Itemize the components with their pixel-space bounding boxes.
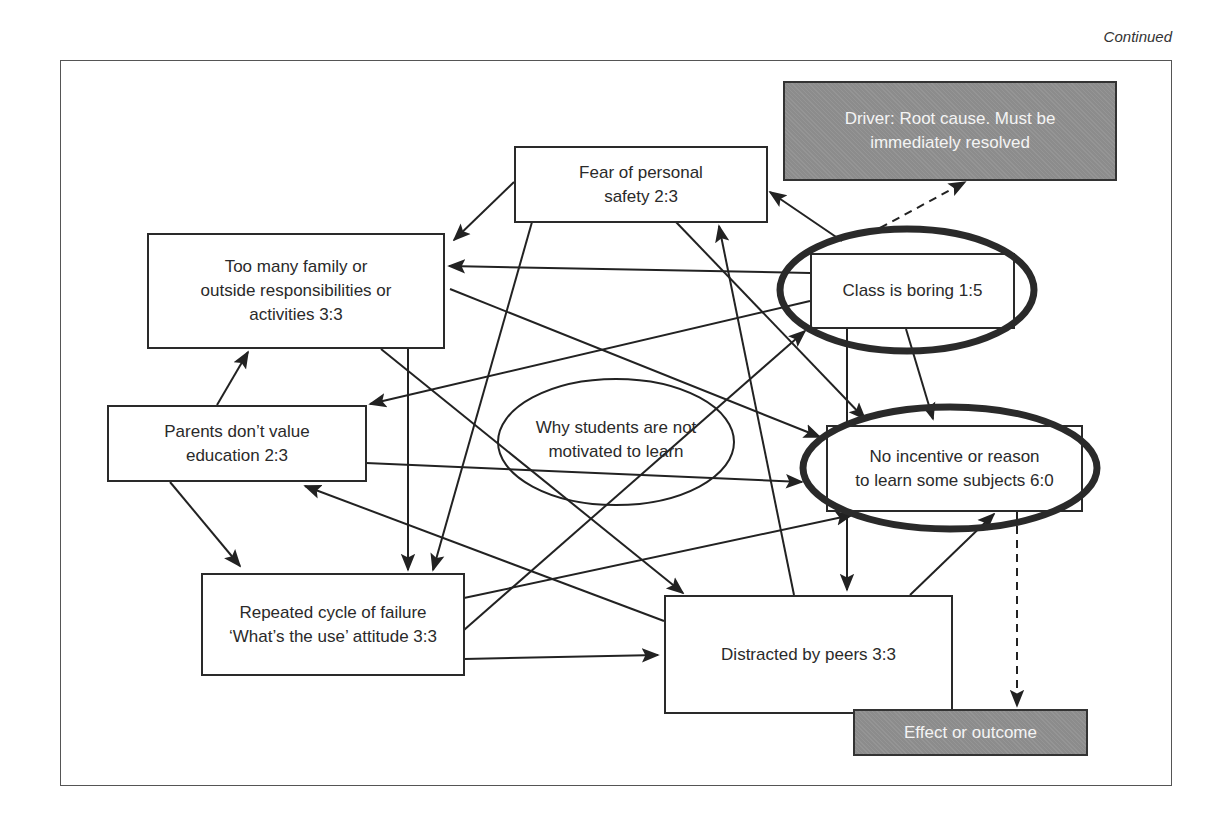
edge-boring-driver <box>880 182 965 228</box>
node-parents-dont-value-education: Parents don’t value education 2:3 <box>107 405 367 482</box>
edge-peers-incentive <box>910 514 994 595</box>
node-label-line: Distracted by peers 3:3 <box>721 643 896 667</box>
node-label-line: activities 3:3 <box>249 303 343 327</box>
node-no-incentive-to-learn: No incentive or reason to learn some sub… <box>826 425 1083 512</box>
edge-parents-family <box>217 352 248 405</box>
node-label-line: No incentive or reason <box>869 445 1039 469</box>
node-label-line: safety 2:3 <box>604 185 678 209</box>
node-fear-of-personal-safety: Fear of personal safety 2:3 <box>514 146 768 223</box>
edge-boring-fear <box>770 192 842 241</box>
node-label-line: Repeated cycle of failure <box>239 601 426 625</box>
edge-failure-peers <box>464 655 658 659</box>
node-too-many-family-responsibilities: Too many family or outside responsibilit… <box>147 233 445 349</box>
legend-driver-label: Driver: Root cause. Must be immediately … <box>835 107 1065 155</box>
node-label-line: Fear of personal <box>579 161 703 185</box>
legend-outcome-box: Effect or outcome <box>853 709 1088 756</box>
edge-boring-family <box>449 266 810 273</box>
legend-outcome-label: Effect or outcome <box>904 721 1037 745</box>
edge-parents-failure <box>170 482 240 566</box>
edge-boring-incentive <box>906 329 933 419</box>
node-label-line: Parents don’t value <box>164 420 310 444</box>
edge-peers-fear <box>719 226 794 595</box>
legend-driver-box: Driver: Root cause. Must be immediately … <box>783 81 1117 181</box>
node-label-line: Too many family or <box>225 255 368 279</box>
node-label-line: education 2:3 <box>186 444 288 468</box>
edge-fear-family <box>454 182 514 240</box>
node-label-line: to learn some subjects 6:0 <box>855 469 1053 493</box>
node-distracted-by-peers: Distracted by peers 3:3 <box>664 595 953 714</box>
node-class-is-boring: Class is boring 1:5 <box>810 253 1015 329</box>
node-repeated-cycle-of-failure: Repeated cycle of failure ‘What’s the us… <box>201 573 465 676</box>
node-label-line: outside responsibilities or <box>201 279 392 303</box>
topic-label: Why students are not motivated to learn <box>510 395 722 485</box>
node-label-line: ‘What’s the use’ attitude 3:3 <box>229 625 437 649</box>
topic-label-text: Why students are not motivated to learn <box>531 416 701 464</box>
node-label-line: Class is boring 1:5 <box>843 279 983 303</box>
edge-failure-incentive <box>464 515 852 598</box>
